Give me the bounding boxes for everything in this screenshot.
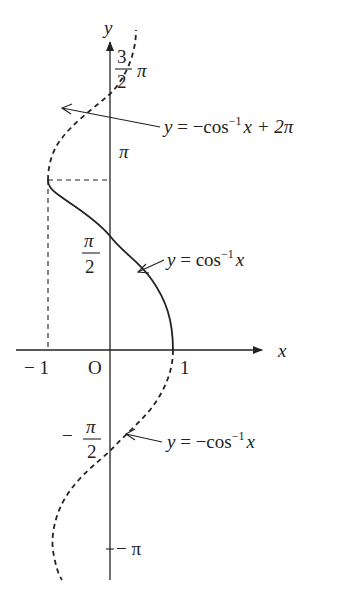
eq-low-rhs: x xyxy=(245,431,255,452)
origin-label: O xyxy=(88,357,102,378)
x-tick-neg-one: − 1 xyxy=(24,357,49,378)
y-tick-3-2-pi-pi: π xyxy=(137,60,147,81)
eq-upper-rhs: x + 2π xyxy=(242,116,293,137)
curve-lower-dashed xyxy=(52,350,173,580)
arrow-upper-eq xyxy=(62,108,160,127)
y-tick-neg-pi-2-minus: − xyxy=(62,425,73,446)
eq-upper-mid: = −cos xyxy=(172,116,228,137)
eq-mid-lhs: y xyxy=(165,249,176,270)
eq-low-mid: = −cos xyxy=(175,431,231,452)
y-tick-3-2-pi-den: 2 xyxy=(117,71,127,92)
eq-mid-rhs: x xyxy=(235,249,245,270)
eq-upper: y = −cos−1x + 2π xyxy=(162,114,294,137)
eq-low: y = −cos−1x xyxy=(165,429,255,452)
eq-low-sup: −1 xyxy=(232,429,245,443)
x-axis-label: x xyxy=(277,340,287,361)
eq-upper-sup: −1 xyxy=(229,114,242,128)
eq-mid-mid: = cos xyxy=(175,249,221,270)
y-tick-3-2-pi-num: 3 xyxy=(117,46,127,67)
y-tick-pi-2-num: π xyxy=(84,230,94,251)
eq-mid: y = cos−1x xyxy=(165,247,245,270)
y-tick-pi: π xyxy=(119,141,129,162)
x-tick-one: 1 xyxy=(180,357,190,378)
eq-mid-sup: −1 xyxy=(221,247,234,261)
eq-low-lhs: y xyxy=(165,431,176,452)
y-axis-label: y xyxy=(102,17,113,38)
y-tick-neg-pi-2-num: π xyxy=(86,416,96,437)
y-tick-neg-pi-2-den: 2 xyxy=(87,441,97,462)
eq-upper-lhs: y xyxy=(162,116,173,137)
y-tick-neg-pi: − π xyxy=(116,538,141,559)
y-tick-pi-2-den: 2 xyxy=(85,256,95,277)
arrow-mid-eq xyxy=(138,260,164,272)
inverse-cosine-graph: y x O − 1 1 3 2 π π π 2 − π 2 − π y = −c… xyxy=(0,0,351,598)
